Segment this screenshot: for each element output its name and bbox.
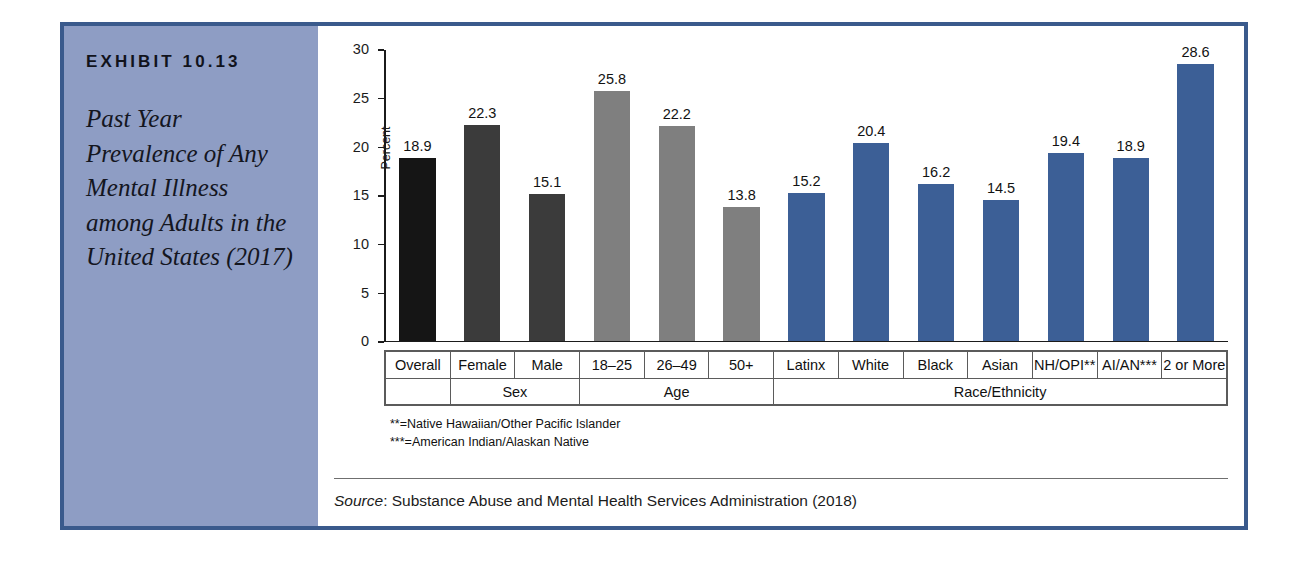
category-cell: 50+	[709, 352, 774, 379]
source-line: Source: Substance Abuse and Mental Healt…	[334, 492, 857, 510]
y-tick-label: 15	[353, 187, 369, 203]
category-cell: Female	[450, 352, 515, 379]
source-label: Source	[334, 492, 383, 509]
category-cell: White	[838, 352, 903, 379]
bar-slot: 22.3	[450, 50, 515, 341]
category-cell: 2 or More	[1162, 352, 1227, 379]
category-cell: Male	[515, 352, 580, 379]
bar-value-label: 15.2	[792, 173, 820, 189]
bar-value-label: 25.8	[598, 71, 626, 87]
bar-slot: 18.9	[385, 50, 450, 341]
bar[interactable]: 18.9	[1113, 158, 1149, 341]
exhibit-frame: EXHIBIT 10.13 Past Year Prevalence of An…	[60, 22, 1248, 530]
y-tick-label: 10	[353, 236, 369, 252]
y-tick: 10	[378, 244, 384, 246]
y-tick: 5	[378, 293, 384, 295]
chart-panel: Percent 051015202530 18.922.315.125.822.…	[318, 26, 1244, 526]
y-tick-label: 30	[353, 41, 369, 57]
bar-slot: 19.4	[1033, 50, 1098, 341]
bar[interactable]: 22.3	[464, 125, 500, 341]
plot-area: 051015202530 18.922.315.125.822.213.815.…	[384, 50, 1228, 342]
group-cell: Sex	[450, 379, 579, 405]
bar[interactable]: 15.1	[529, 194, 565, 340]
exhibit-caption-panel: EXHIBIT 10.13 Past Year Prevalence of An…	[64, 26, 318, 526]
bar-value-label: 19.4	[1052, 133, 1080, 149]
bars-layer: 18.922.315.125.822.213.815.220.416.214.5…	[385, 50, 1228, 341]
plot-wrap: Percent 051015202530 18.922.315.125.822.…	[332, 42, 1228, 342]
source-divider	[334, 478, 1228, 479]
y-tick: 0	[378, 341, 384, 343]
group-cell-blank	[386, 379, 451, 405]
source-text: : Substance Abuse and Mental Health Serv…	[383, 492, 857, 509]
bar-slot: 25.8	[580, 50, 645, 341]
category-cell: Black	[903, 352, 968, 379]
bar[interactable]: 28.6	[1177, 64, 1213, 341]
category-cell: Overall	[386, 352, 451, 379]
category-cell: Latinx	[774, 352, 839, 379]
bar[interactable]: 25.8	[594, 91, 630, 341]
bar-slot: 18.9	[1098, 50, 1163, 341]
category-label-table: OverallFemaleMale18–2526–4950+LatinxWhit…	[384, 350, 1228, 406]
group-row: SexAgeRace/Ethnicity	[386, 379, 1227, 405]
y-tick: 15	[378, 195, 384, 197]
y-tick: 25	[378, 98, 384, 100]
bar-value-label: 14.5	[987, 180, 1015, 196]
bar-slot: 13.8	[709, 50, 774, 341]
y-tick: 20	[378, 147, 384, 149]
bar[interactable]: 18.9	[399, 158, 435, 341]
group-cell: Race/Ethnicity	[774, 379, 1227, 405]
y-tick-label: 0	[361, 333, 369, 349]
bar-value-label: 13.8	[728, 187, 756, 203]
bar[interactable]: 13.8	[723, 207, 759, 341]
bar[interactable]: 14.5	[983, 200, 1019, 340]
category-cell: NH/OPI**	[1032, 352, 1097, 379]
y-tick-label: 25	[353, 90, 369, 106]
bar[interactable]: 22.2	[659, 126, 695, 341]
x-axis-line	[384, 341, 1228, 343]
bar[interactable]: 16.2	[918, 184, 954, 341]
bar[interactable]: 20.4	[853, 143, 889, 341]
bar-value-label: 16.2	[922, 164, 950, 180]
bar[interactable]: 19.4	[1048, 153, 1084, 341]
bar-slot: 16.2	[904, 50, 969, 341]
bar-value-label: 22.3	[468, 105, 496, 121]
footnote-line: ***=American Indian/Alaskan Native	[390, 434, 620, 452]
category-cell: 18–25	[580, 352, 645, 379]
y-tick-label: 5	[361, 285, 369, 301]
category-row: OverallFemaleMale18–2526–4950+LatinxWhit…	[386, 352, 1227, 379]
bar-slot: 14.5	[969, 50, 1034, 341]
group-cell: Age	[580, 379, 774, 405]
y-tick-label: 20	[353, 139, 369, 155]
category-cell: Asian	[968, 352, 1033, 379]
category-cell: 26–49	[644, 352, 709, 379]
footnotes: **=Native Hawaiian/Other Pacific Islande…	[390, 416, 620, 452]
bar-slot: 15.1	[515, 50, 580, 341]
bar[interactable]: 15.2	[788, 193, 824, 340]
bar-slot: 22.2	[644, 50, 709, 341]
bar-value-label: 20.4	[857, 123, 885, 139]
bar-value-label: 18.9	[403, 138, 431, 154]
bar-slot: 15.2	[774, 50, 839, 341]
exhibit-number: EXHIBIT 10.13	[86, 52, 296, 72]
bar-value-label: 18.9	[1117, 138, 1145, 154]
bar-slot: 20.4	[839, 50, 904, 341]
bar-value-label: 28.6	[1181, 44, 1209, 60]
y-tick: 30	[378, 49, 384, 51]
bar-slot: 28.6	[1163, 50, 1228, 341]
exhibit-title: Past Year Prevalence of Any Mental Illne…	[86, 102, 296, 275]
bar-value-label: 22.2	[663, 106, 691, 122]
footnote-line: **=Native Hawaiian/Other Pacific Islande…	[390, 416, 620, 434]
bar-value-label: 15.1	[533, 174, 561, 190]
category-cell: AI/AN***	[1097, 352, 1162, 379]
